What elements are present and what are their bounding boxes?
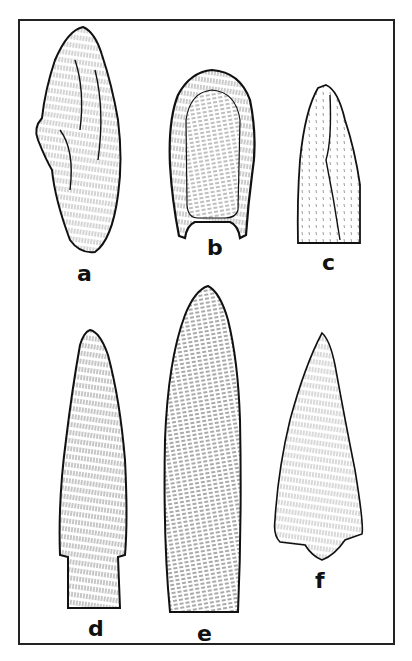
figure-label-b: b [207,237,223,259]
artifact-a [36,27,120,252]
artifact-d [60,330,127,608]
figure-label-c: c [322,252,335,274]
figure-label-d: d [88,618,104,640]
figure-label-f: f [315,570,325,592]
figure-label-a: a [77,263,92,285]
figure-label-e: e [197,623,212,645]
artifact-e [165,286,241,612]
artifact-c [298,85,360,243]
plate-illustration [0,0,412,661]
artifact-b [170,70,255,238]
artifact-f [275,333,363,560]
